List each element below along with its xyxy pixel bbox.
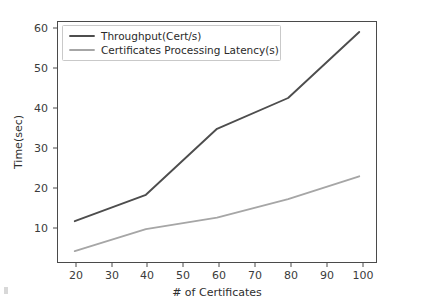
x-tick-label: 40 <box>140 269 154 282</box>
legend-label-latency: Certificates Processing Latency(s) <box>101 44 279 56</box>
line-chart: 60 50 40 30 20 10 20 30 40 50 60 70 <box>0 0 437 304</box>
x-tick-label: 50 <box>176 269 190 282</box>
y-tick-label: 30 <box>34 142 48 155</box>
legend-label-throughput: Throughput(Cert/s) <box>100 30 201 42</box>
scan-artifact <box>4 287 8 294</box>
chart-legend: Throughput(Cert/s) Certificates Processi… <box>63 26 281 61</box>
x-tick-label: 100 <box>353 269 374 282</box>
y-tick-label: 40 <box>34 102 48 115</box>
y-tick-label: 60 <box>34 22 48 35</box>
x-tick-label: 70 <box>248 269 262 282</box>
x-tick-label: 20 <box>69 269 83 282</box>
x-tick-labels: 20 30 40 50 60 70 80 90 100 <box>69 269 374 282</box>
y-axis-title: Time(sec) <box>12 115 25 170</box>
y-tick-labels: 60 50 40 30 20 10 <box>34 22 48 235</box>
x-tick-label: 60 <box>212 269 226 282</box>
x-tick-label: 90 <box>320 269 334 282</box>
x-tick-marks <box>76 263 363 267</box>
y-tick-label: 20 <box>34 182 48 195</box>
chart-figure: 60 50 40 30 20 10 20 30 40 50 60 70 <box>0 0 437 304</box>
y-tick-marks <box>53 28 57 228</box>
y-tick-label: 10 <box>34 222 48 235</box>
x-tick-label: 30 <box>105 269 119 282</box>
x-axis-title: # of Certificates <box>172 286 262 299</box>
x-tick-label: 80 <box>284 269 298 282</box>
y-tick-label: 50 <box>34 62 48 75</box>
